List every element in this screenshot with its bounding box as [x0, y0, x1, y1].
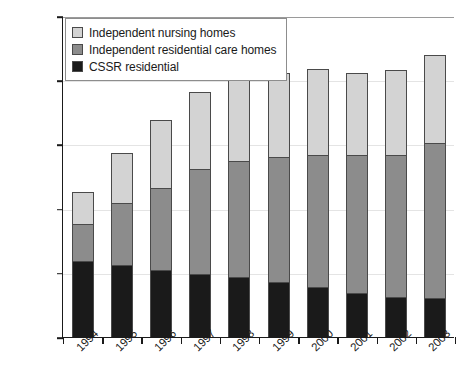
bar-segment[interactable]	[268, 157, 290, 282]
y-axis-tick-mark	[57, 273, 63, 275]
x-axis-tick-mark	[377, 337, 378, 344]
y-axis-tick-mark	[57, 16, 63, 18]
bar-segment[interactable]	[111, 153, 133, 203]
x-axis-tick-mark	[63, 337, 64, 344]
bar-stack-1998[interactable]	[228, 75, 250, 337]
bar-stack-1997[interactable]	[189, 92, 211, 337]
y-axis-tick-mark	[57, 209, 63, 211]
bar-stack-2003[interactable]	[424, 55, 446, 337]
bar-segment[interactable]	[189, 92, 211, 169]
bar-segment[interactable]	[189, 169, 211, 274]
bar-stack-1995[interactable]	[111, 153, 133, 337]
x-axis-tick-mark	[416, 337, 417, 344]
bar-stack-1996[interactable]	[150, 120, 172, 337]
bar-stack-1999[interactable]	[268, 73, 290, 337]
bar-segment[interactable]	[72, 192, 94, 224]
bar-segment[interactable]	[385, 155, 407, 298]
bar-segment[interactable]	[150, 120, 172, 188]
y-axis-tick-mark	[57, 145, 63, 147]
bar-segment[interactable]	[111, 203, 133, 265]
bar-segment[interactable]	[228, 75, 250, 161]
x-axis-tick-mark	[181, 337, 182, 344]
bar-segment[interactable]	[307, 69, 329, 155]
bar-segment[interactable]	[424, 55, 446, 144]
bar-stack-2002[interactable]	[385, 70, 407, 337]
bar-segment[interactable]	[72, 224, 94, 261]
bar-stack-2001[interactable]	[346, 73, 368, 337]
legend-item[interactable]: Independent nursing homes	[72, 24, 276, 41]
bar-segment[interactable]	[346, 73, 368, 155]
x-axis-tick-mark	[259, 337, 260, 344]
legend-swatch-icon	[72, 44, 83, 55]
bar-segment[interactable]	[346, 155, 368, 294]
bar-segment[interactable]	[424, 143, 446, 298]
legend-label: Independent residential care homes	[89, 43, 276, 57]
legend-label: CSSR residential	[89, 60, 179, 74]
bar-segment[interactable]	[268, 73, 290, 158]
bar-segment[interactable]	[228, 161, 250, 277]
x-axis-tick-mark	[298, 337, 299, 344]
x-axis-tick-mark	[455, 337, 456, 344]
legend-swatch-icon	[72, 61, 83, 72]
legend-label: Independent nursing homes	[89, 26, 235, 40]
bar-segment[interactable]	[150, 188, 172, 270]
x-axis-tick-mark	[102, 337, 103, 344]
legend-swatch-icon	[72, 27, 83, 38]
stacked-bar-chart: 050,000100,000150,000200,000250,000 Inde…	[0, 0, 463, 372]
bar-segment[interactable]	[111, 265, 133, 337]
legend-item[interactable]: CSSR residential	[72, 58, 276, 75]
x-axis-tick-mark	[220, 337, 221, 344]
x-axis-tick-mark	[141, 337, 142, 344]
bar-stack-2000[interactable]	[307, 69, 329, 337]
bar-stack-1994[interactable]	[72, 192, 94, 337]
bar-segment[interactable]	[385, 70, 407, 155]
x-axis-tick-mark	[337, 337, 338, 344]
bar-segment[interactable]	[307, 155, 329, 287]
chart-legend: Independent nursing homesIndependent res…	[65, 18, 287, 81]
y-axis-tick-mark	[57, 80, 63, 82]
bar-segment[interactable]	[72, 261, 94, 337]
legend-item[interactable]: Independent residential care homes	[72, 41, 276, 58]
